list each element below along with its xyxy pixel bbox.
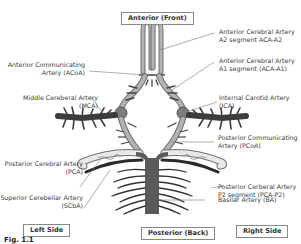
label-mca: Middle Cereberal Artery (MCA) [23,94,98,110]
label-ba: Basilar Artery (BA) [218,196,277,204]
anterior-label: Anterior (Front) [121,12,194,25]
label-aca-a1: Anterior Cerebral Artery A1 segment (ACA… [219,57,295,73]
posterior-label: Posterior (Back) [141,227,215,240]
mca-vessels [58,107,246,129]
aca-a2-vessels [143,22,161,72]
label-ica: Internal Carotid Artery (ICA) [219,94,290,110]
figure-caption: Fig. 1.1 [4,236,34,244]
label-pca: Posterior Cerebral Artery (PCA) [5,160,83,176]
basilar-artery [145,158,159,214]
label-scba: Superior Cerebellar Artery (SCbA) [0,194,83,210]
right-side-label: Right Side [236,225,288,238]
label-acoa: Anterior Communicating Artery (ACoA) [8,61,85,77]
label-aca-a2: Anterior Cerebral Artery A2 segment ACA-… [219,28,295,44]
label-pcoa: Posterior Communicating Artery (PCoA) [218,134,298,150]
